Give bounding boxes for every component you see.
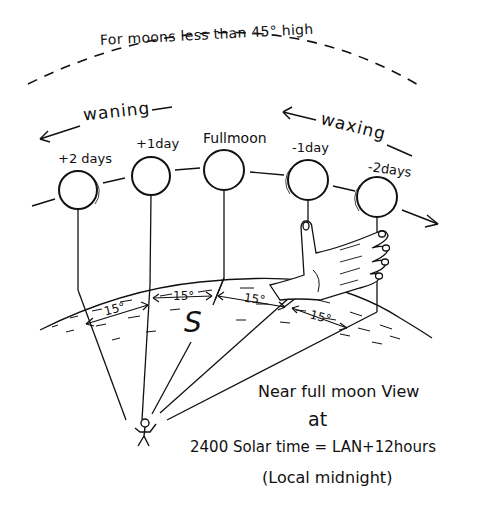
observer-figure-icon: [135, 419, 156, 446]
angle-label-2: 15°: [173, 290, 194, 302]
moon-label-plus-2-days: +2 days: [58, 152, 112, 165]
moon-label-plus-1-day: +1day: [136, 137, 179, 150]
caption-line-4: (Local midnight): [262, 470, 392, 486]
meridian-tick: [213, 278, 224, 305]
moon-label-full-moon: Fullmoon: [203, 131, 267, 145]
moon-minus-1-day: [286, 160, 328, 200]
horizon-ground: [40, 278, 432, 344]
caption-line-2: at: [308, 410, 327, 429]
caption-line-3: 2400 Solar time = LAN+12hours: [190, 440, 436, 455]
hand-icon: [270, 221, 390, 300]
moon-plus-1-day: [132, 157, 170, 195]
moon-full: [204, 150, 244, 190]
moon-plus-2-days: [59, 171, 99, 209]
moon-minus-2-days: [355, 177, 397, 217]
moon-label-minus-1-day: -1day: [292, 141, 329, 154]
south-marker: S: [184, 309, 202, 337]
caption-line-1: Near full moon View: [258, 384, 419, 400]
angle-label-3: 15°: [243, 292, 266, 307]
